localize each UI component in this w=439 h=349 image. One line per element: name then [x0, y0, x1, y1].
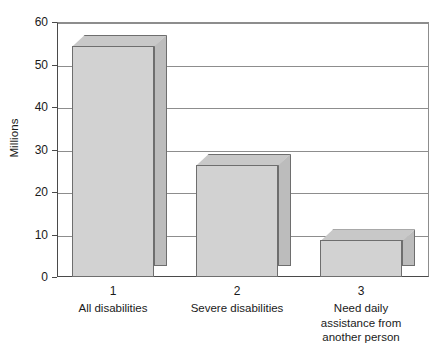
y-axis-tick-mark — [52, 277, 57, 278]
bar-chart: Millions 60504030201001All disabilities2… — [0, 0, 439, 349]
bar-front-face — [320, 240, 402, 277]
x-axis-tick-number: 3 — [358, 284, 365, 298]
bar-column — [72, 35, 167, 277]
y-axis-tick-mark — [52, 107, 57, 108]
bar-column — [196, 154, 291, 277]
y-axis-tick-label: 50 — [2, 59, 48, 71]
y-axis-tick-label: 0 — [2, 271, 48, 283]
x-axis-tick-number: 1 — [110, 284, 117, 298]
bar-front-face — [196, 165, 278, 277]
y-axis-tick-label: 30 — [2, 144, 48, 156]
y-axis-tick-mark — [52, 192, 57, 193]
y-axis-tick-mark — [52, 22, 57, 23]
bar-side-face — [154, 35, 167, 266]
bar-column — [320, 229, 415, 277]
y-axis-tick-mark — [52, 235, 57, 236]
x-axis-tick-number: 2 — [234, 284, 241, 298]
y-axis-tick-label: 60 — [2, 16, 48, 28]
gridline — [58, 23, 428, 24]
y-axis-tick-mark — [52, 150, 57, 151]
y-axis-tick-label: 20 — [2, 186, 48, 198]
bar-side-face — [278, 154, 291, 266]
y-axis-tick-mark — [52, 65, 57, 66]
y-axis-tick-label: 10 — [2, 229, 48, 241]
y-axis-tick-label: 40 — [2, 101, 48, 113]
x-axis-category-label: Need daily assistance from another perso… — [286, 301, 436, 345]
bar-front-face — [72, 46, 154, 277]
